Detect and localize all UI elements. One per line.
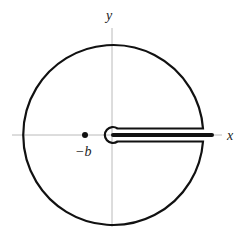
x-axis-label: x [226,128,234,143]
y-axis-label: y [104,8,113,23]
point-label: −b [75,144,91,159]
point-minus-b [82,132,88,138]
keyhole-contour-diagram: y x −b [0,0,249,235]
